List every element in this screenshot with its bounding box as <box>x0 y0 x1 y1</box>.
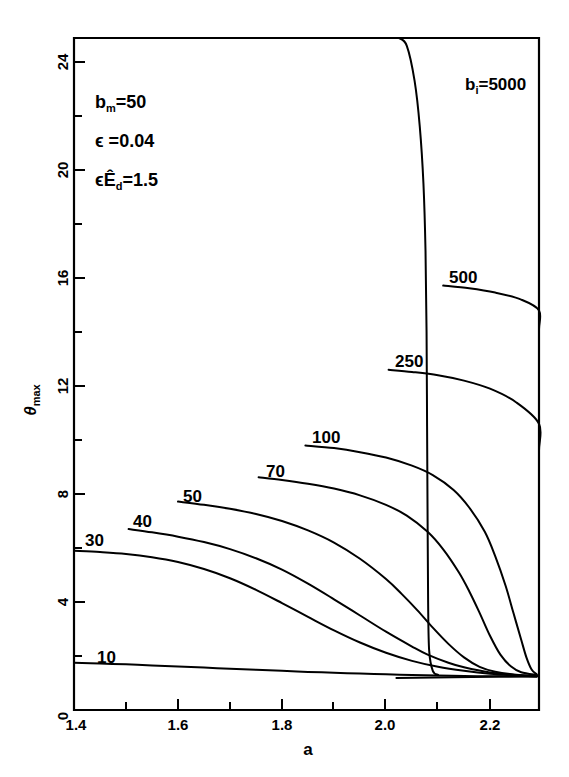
curve-label-10: 10 <box>97 648 116 667</box>
y-axis-title-max: max <box>30 383 42 406</box>
ytick-label-8: 8 <box>54 490 71 498</box>
annotation-epsilon: ϵ =0.04 <box>95 131 154 151</box>
x-axis-major-ticks <box>74 699 490 710</box>
annotation-epsilon-Ed: ϵÊd=1.5 <box>95 169 158 192</box>
curve-10 <box>74 663 537 677</box>
curve-label-40: 40 <box>133 512 152 531</box>
ytick-label-4: 4 <box>54 597 71 606</box>
curve-label-250: 250 <box>395 352 423 371</box>
xtick-label-4: 2.0 <box>375 716 396 733</box>
xtick-label-2: 1.6 <box>168 716 189 733</box>
figure-container: 24 20 16 12 8 4 0 1.4 1.6 1.8 2.0 2.2 a … <box>0 0 569 777</box>
curve-labels: 10 30 40 50 70 100 250 500 bi=5000 <box>85 75 526 667</box>
x-axis-title: a <box>303 740 313 759</box>
ytick-label-24: 24 <box>54 53 71 70</box>
ytick-label-20: 20 <box>54 162 71 179</box>
curve-label-500: 500 <box>449 268 477 287</box>
annotation-bm: bm=50 <box>95 92 146 114</box>
y-axis-title: θmax <box>21 383 42 415</box>
xtick-label-3: 1.8 <box>272 716 293 733</box>
y-tick-labels: 24 20 16 12 8 4 0 <box>54 53 71 720</box>
y-axis-major-ticks <box>74 62 85 710</box>
asymptote-bundle <box>396 676 539 678</box>
curve-70 <box>259 477 537 675</box>
curve-label-30: 30 <box>85 531 104 550</box>
curve-label-50: 50 <box>183 487 202 506</box>
curve-30 <box>74 551 537 677</box>
curve-100 <box>305 445 536 674</box>
ytick-label-12: 12 <box>54 378 71 395</box>
curve-label-5000: bi=5000 <box>465 75 526 96</box>
curve-label-100: 100 <box>312 428 340 447</box>
xtick-label-1: 1.4 <box>66 716 88 733</box>
parameter-annotations: bm=50 ϵ =0.04 ϵÊd=1.5 <box>95 92 158 192</box>
curve-500 <box>443 286 540 675</box>
xtick-label-5: 2.2 <box>480 716 501 733</box>
svg-text:θmax: θmax <box>21 383 42 415</box>
theta-max-vs-a-chart: 24 20 16 12 8 4 0 1.4 1.6 1.8 2.0 2.2 a … <box>0 0 569 777</box>
curve-label-70: 70 <box>266 462 285 481</box>
x-tick-labels: 1.4 1.6 1.8 2.0 2.2 <box>66 716 501 733</box>
ytick-label-16: 16 <box>54 270 71 287</box>
